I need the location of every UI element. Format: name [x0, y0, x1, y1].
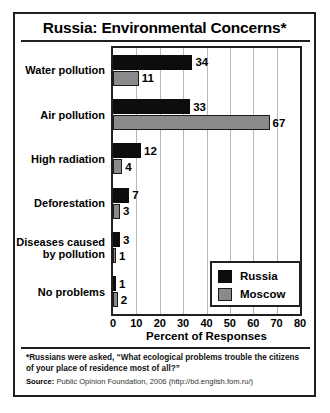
title-divider: [21, 40, 310, 42]
bar-value-label: 11: [142, 72, 154, 84]
category-label-2: High radiation: [13, 153, 105, 166]
source-line: Source: Public Opinion Foundation, 2006 …: [26, 377, 311, 387]
bar-value-label: 3: [123, 234, 129, 246]
bar-value-label: 34: [195, 56, 208, 68]
bar-russia-5: [113, 276, 116, 291]
x-tick-80: 80: [294, 317, 306, 329]
bar-russia-3: [113, 188, 129, 203]
bar-moscow-0: [113, 71, 139, 86]
footnote-divider: [21, 347, 310, 349]
legend-item-russia: Russia: [218, 267, 299, 285]
bar-moscow-2: [113, 159, 122, 174]
x-tick-40: 40: [200, 317, 212, 329]
bar-moscow-1: [113, 115, 270, 130]
bar-moscow-5: [113, 292, 118, 307]
bar-value-label: 12: [144, 145, 157, 157]
bar-value-label: 33: [193, 101, 206, 113]
bar-value-label: 1: [119, 250, 125, 262]
source-label: Source:: [26, 377, 54, 386]
legend-item-moscow: Moscow: [218, 285, 299, 303]
bar-moscow-4: [113, 248, 116, 263]
bar-value-label: 7: [132, 189, 138, 201]
x-tick-10: 10: [130, 317, 142, 329]
legend-label: Russia: [240, 270, 278, 282]
bar-russia-1: [113, 99, 190, 114]
bar-value-label: 3: [123, 205, 129, 217]
bar-russia-4: [113, 232, 120, 247]
bar-value-label: 1: [119, 278, 125, 290]
x-tick-20: 20: [154, 317, 166, 329]
category-label-3: Deforestation: [13, 197, 105, 210]
legend-swatch-moscow: [218, 288, 232, 301]
category-label-4: Diseases caused by pollution: [13, 235, 105, 260]
category-label-0: Water pollution: [13, 64, 105, 77]
bar-value-label: 4: [125, 161, 131, 173]
x-tick-0: 0: [110, 317, 116, 329]
legend: RussiaMoscow: [210, 261, 301, 307]
category-label-5: No problems: [13, 286, 105, 299]
x-tick-30: 30: [177, 317, 189, 329]
legend-swatch-russia: [218, 270, 232, 283]
chart-title: Russia: Environmental Concerns*: [15, 19, 314, 37]
bar-russia-2: [113, 143, 141, 158]
bar-value-label: 2: [121, 294, 127, 306]
legend-label: Moscow: [240, 288, 285, 300]
figure-card: Russia: Environmental Concerns* Water po…: [13, 12, 316, 397]
x-tick-60: 60: [247, 317, 259, 329]
bar-moscow-3: [113, 204, 120, 219]
x-axis-tick-labels: 01020304050607080: [111, 317, 302, 331]
x-axis-title: Percent of Responses: [111, 330, 302, 342]
x-tick-50: 50: [224, 317, 236, 329]
bar-value-label: 67: [273, 117, 286, 129]
category-axis-labels: Water pollutionAir pollutionHigh radiati…: [15, 46, 109, 316]
footnote-text: *Russians were asked, “What ecological p…: [26, 352, 306, 374]
category-label-1: Air pollution: [13, 108, 105, 121]
x-tick-70: 70: [271, 317, 283, 329]
bar-russia-0: [113, 55, 192, 70]
source-text: Public Opinion Foundation, 2006 (http://…: [56, 377, 253, 386]
